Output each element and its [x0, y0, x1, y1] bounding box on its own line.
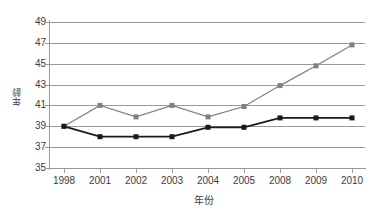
y-axis-tick-label: 35	[26, 163, 46, 173]
y-axis-tick-label: 39	[26, 121, 46, 131]
y-axis-tick-mark	[45, 85, 49, 86]
gridline	[49, 85, 365, 86]
y-axis-tick-mark	[45, 43, 49, 44]
y-axis-tick-labels: 3537394143454749	[26, 16, 46, 168]
x-axis-tick-label: 1998	[44, 175, 84, 186]
y-axis-tick-label: 47	[26, 38, 46, 48]
y-axis-tick-label: 41	[26, 100, 46, 110]
y-axis-tick-mark	[45, 126, 49, 127]
x-axis-tick-label: 2008	[260, 175, 300, 186]
x-axis-tick-label: 2010	[332, 175, 371, 186]
gridline	[49, 168, 365, 169]
x-axis-tick-mark	[64, 169, 65, 173]
gridline	[49, 22, 365, 23]
gridline	[49, 64, 365, 65]
gridline	[49, 43, 365, 44]
y-axis-tick-label: 49	[26, 17, 46, 27]
x-axis-tick-label: 2004	[188, 175, 228, 186]
y-axis-tick-label: 45	[26, 59, 46, 69]
x-axis-tick-mark	[100, 169, 101, 173]
gridline	[49, 105, 365, 106]
x-axis-tick-mark	[352, 169, 353, 173]
x-axis-tick-mark	[208, 169, 209, 173]
y-axis-tick-mark	[45, 168, 49, 169]
y-axis-tick-mark	[45, 22, 49, 23]
gridline	[49, 126, 365, 127]
x-axis-tick-label: 2002	[116, 175, 156, 186]
x-axis-tick-label: 2001	[80, 175, 120, 186]
x-axis-tick-label: 2009	[296, 175, 336, 186]
x-axis-tick-label: 2003	[152, 175, 192, 186]
y-axis-tick-mark	[45, 105, 49, 106]
x-axis-tick-label: 2005	[224, 175, 264, 186]
y-axis-tick-label: 43	[26, 80, 46, 90]
y-axis-tick-mark	[45, 147, 49, 148]
line-chart: 年龄 3537394143454749 19982001200220032004…	[0, 0, 371, 221]
plot-area	[49, 22, 365, 168]
y-axis-tick-mark	[45, 64, 49, 65]
x-axis-tick-mark	[280, 169, 281, 173]
x-axis-tick-mark	[172, 169, 173, 173]
x-axis-tick-mark	[244, 169, 245, 173]
x-axis-tick-mark	[316, 169, 317, 173]
y-axis-tick-label: 37	[26, 142, 46, 152]
x-axis-title: 年份	[0, 192, 371, 207]
gridline	[49, 147, 365, 148]
y-axis-title: 年龄	[11, 78, 25, 116]
x-axis-tick-mark	[136, 169, 137, 173]
